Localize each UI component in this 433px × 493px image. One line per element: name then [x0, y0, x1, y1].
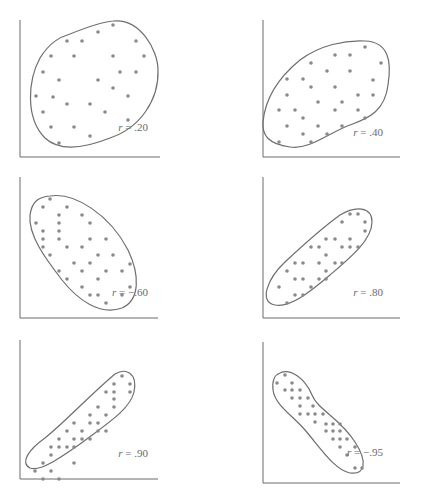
data-point [321, 412, 325, 416]
data-point [379, 61, 383, 65]
scatter-panel-r-neg095: r = −.95 [263, 342, 400, 483]
data-point [324, 253, 328, 257]
data-point [285, 269, 289, 273]
data-point [134, 70, 138, 74]
data-point [353, 466, 357, 470]
data-point [338, 422, 342, 426]
data-point [80, 285, 84, 289]
data-point [104, 237, 108, 241]
data-point [126, 94, 130, 98]
data-point [298, 412, 302, 416]
data-point [348, 69, 352, 73]
data-point [49, 453, 53, 457]
data-point [41, 70, 45, 74]
data-point [363, 116, 367, 120]
data-point [104, 429, 108, 433]
data-point [333, 261, 337, 265]
data-point [111, 23, 115, 27]
data-point [290, 396, 294, 400]
data-point [324, 429, 328, 433]
data-point [48, 197, 52, 201]
data-point [285, 77, 289, 81]
data-point [311, 404, 315, 408]
data-point [324, 269, 328, 273]
data-point [65, 205, 69, 209]
data-point [57, 213, 61, 217]
scatter-panel-r-040: r = .40 [263, 20, 400, 157]
data-point [363, 229, 367, 233]
data-point [306, 396, 310, 400]
data-point [80, 429, 84, 433]
data-point [104, 269, 108, 273]
data-point [41, 461, 45, 465]
data-point [88, 237, 92, 241]
data-point [80, 437, 84, 441]
data-point [313, 420, 317, 424]
data-point [49, 125, 53, 129]
data-point [356, 93, 360, 97]
data-point [96, 277, 100, 281]
data-point [103, 110, 107, 114]
data-point [80, 213, 84, 217]
data-point [293, 108, 297, 112]
data-point [309, 85, 313, 89]
data-point [331, 429, 335, 433]
data-point [348, 245, 352, 249]
data-point [65, 429, 69, 433]
data-point [340, 261, 344, 265]
data-point [111, 253, 115, 257]
data-point [283, 388, 287, 392]
data-point [360, 466, 364, 470]
data-point [316, 100, 320, 104]
data-point [65, 277, 69, 281]
data-point [293, 261, 297, 265]
data-point [285, 124, 289, 128]
data-point [88, 437, 92, 441]
data-point [277, 108, 281, 112]
data-point [80, 269, 84, 273]
data-point [88, 102, 92, 106]
data-point [57, 221, 61, 225]
correlation-label: r = .20 [118, 121, 148, 133]
data-point [111, 86, 115, 90]
data-point [96, 421, 100, 425]
data-point [309, 140, 313, 144]
data-point [41, 245, 45, 249]
data-point [120, 269, 124, 273]
data-point [345, 437, 349, 441]
data-point [57, 229, 61, 233]
data-point [41, 237, 45, 241]
data-point [112, 397, 116, 401]
data-point [72, 445, 76, 449]
data-point [49, 54, 53, 58]
data-point [301, 132, 305, 136]
data-point [277, 285, 281, 289]
data-point [298, 388, 302, 392]
data-point [65, 39, 69, 43]
data-point [325, 69, 329, 73]
data-point [65, 445, 69, 449]
data-point [72, 461, 76, 465]
data-point [293, 293, 297, 297]
correlation-label: r = .90 [118, 447, 148, 459]
data-point [340, 124, 344, 128]
data-point [277, 140, 281, 144]
data-point [57, 237, 61, 241]
data-point [317, 261, 321, 265]
data-point [338, 445, 342, 449]
data-point [57, 141, 61, 145]
data-point [72, 261, 76, 265]
data-point [301, 293, 305, 297]
data-point [41, 205, 45, 209]
data-point [331, 437, 335, 441]
data-point [128, 262, 132, 266]
data-point [333, 53, 337, 57]
data-point [57, 477, 61, 481]
data-point [317, 245, 321, 249]
data-point [49, 469, 53, 473]
data-point [298, 396, 302, 400]
data-point [356, 212, 360, 216]
data-point [134, 39, 138, 43]
data-point [309, 285, 313, 289]
data-point [34, 221, 38, 225]
